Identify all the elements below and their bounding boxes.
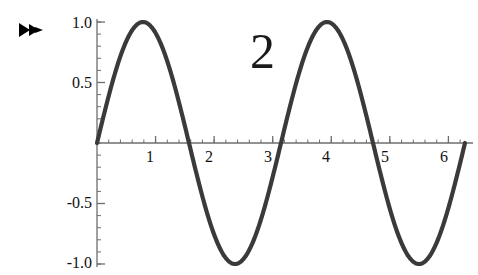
plot-canvas: 1.0 0.5 -0.5 -1.0 1 2 3 4 5 6 2 bbox=[0, 0, 478, 275]
y-tick-label-0.5: 0.5 bbox=[56, 75, 92, 91]
x-tick-label-4: 4 bbox=[322, 149, 330, 165]
x-tick-label-2: 2 bbox=[205, 149, 213, 165]
y-tick-label-1: 1.0 bbox=[56, 15, 92, 31]
y-tick-label--1: -1.0 bbox=[48, 255, 92, 271]
axes bbox=[97, 19, 473, 267]
x-tick-label-5: 5 bbox=[381, 149, 389, 165]
x-tick-label-3: 3 bbox=[264, 149, 272, 165]
sine-plot bbox=[0, 0, 478, 275]
x-tick-label-1: 1 bbox=[146, 149, 154, 165]
y-tick-label--0.5: -0.5 bbox=[48, 195, 92, 211]
plot-annotation-label: 2 bbox=[250, 26, 275, 76]
x-tick-label-6: 6 bbox=[440, 149, 448, 165]
